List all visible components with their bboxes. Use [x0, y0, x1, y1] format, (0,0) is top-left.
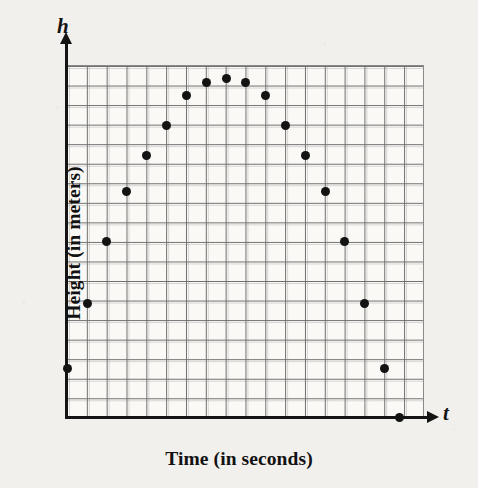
data-point [395, 413, 404, 422]
data-point [281, 121, 290, 130]
data-point [182, 91, 191, 100]
data-point [222, 74, 231, 83]
data-point [162, 121, 171, 130]
data-point [83, 299, 92, 308]
data-point-layer [0, 0, 478, 488]
data-point [202, 78, 211, 87]
data-point [380, 364, 389, 373]
data-point [122, 187, 131, 196]
data-point [63, 364, 72, 373]
data-point [261, 91, 270, 100]
data-point [241, 78, 250, 87]
data-point [340, 237, 349, 246]
data-point [102, 237, 111, 246]
data-point [360, 299, 369, 308]
data-point [301, 151, 310, 160]
data-point [321, 187, 330, 196]
scatter-plot-figure: h t Height (in meters) Time (in seconds) [0, 0, 478, 488]
data-point [142, 151, 151, 160]
